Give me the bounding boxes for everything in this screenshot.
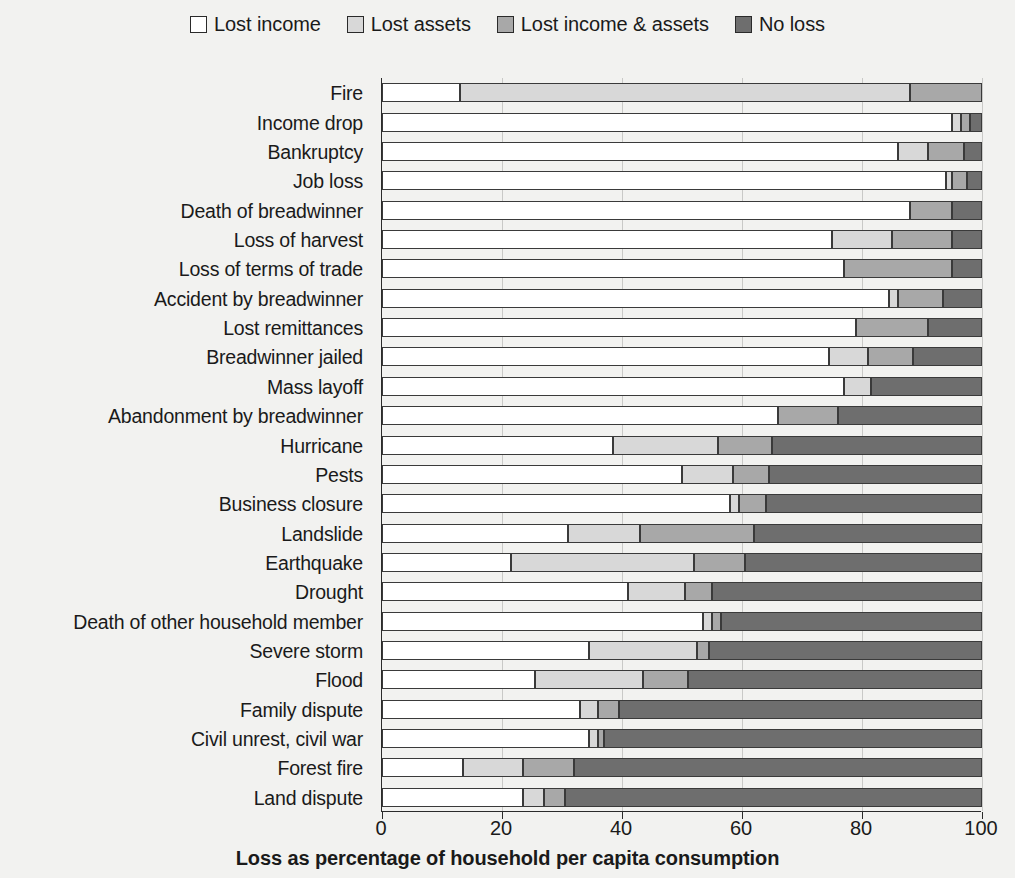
category-label: Mass layoff [267,378,363,398]
bar-segment [685,582,712,601]
legend-swatch-icon [347,16,364,33]
bar-row [382,700,982,719]
bar-segment [739,494,766,513]
bar-segment [928,142,964,161]
category-label: Flood [315,671,363,691]
bar-segment [844,377,871,396]
bar-segment [382,289,889,308]
bar-segment [829,347,868,366]
category-label: Job loss [293,172,363,192]
legend-label: Lost assets [371,14,471,34]
bar-segment [868,347,913,366]
bar-segment [943,289,982,308]
bar-segment [967,171,982,190]
bar-segment [382,318,856,337]
bar-segment [619,700,982,719]
bar-row [382,465,982,484]
bar-segment [382,612,703,631]
plot-area [381,78,981,812]
bar-segment [721,612,982,631]
bar-segment [574,758,982,777]
category-label: Accident by breadwinner [154,290,363,310]
x-tick-label: 0 [375,818,386,838]
bar-segment [565,788,982,807]
bar-segment [952,171,967,190]
x-tick-label: 40 [610,818,632,838]
category-axis-labels: FireIncome dropBankruptcyJob lossDeath o… [0,78,372,812]
category-label: Pests [315,466,363,486]
bar-segment [910,201,952,220]
bar-segment [382,259,844,278]
category-label: Death of other household member [73,613,363,633]
bar-row [382,142,982,161]
bar-row [382,259,982,278]
bar-row [382,436,982,455]
bar-segment [871,377,982,396]
legend-entry: Lost assets [347,14,471,34]
bar-segment [382,113,952,132]
x-axis-title: Loss as percentage of household per capi… [0,847,1015,870]
category-label: Earthquake [265,554,363,574]
legend-label: No loss [759,14,825,34]
bar-segment [589,641,697,660]
category-label: Severe storm [249,642,363,662]
bar-segment [523,758,574,777]
bar-segment [589,729,598,748]
bar-segment [523,788,544,807]
bar-segment [535,670,643,689]
legend-label: Lost income [214,14,321,34]
bar-segment [382,758,463,777]
bar-row [382,641,982,660]
bar-segment [382,553,511,572]
bar-segment [643,670,688,689]
value-axis-tick-labels: 020406080100 [381,818,981,842]
x-tick-label: 100 [964,818,997,838]
bar-segment [745,553,982,572]
bar-row [382,201,982,220]
bar-row [382,729,982,748]
bar-segment [463,758,523,777]
bar-segment [832,230,892,249]
bar-segment [382,641,589,660]
bar-segment [889,289,898,308]
bar-segment [703,612,712,631]
bar-segment [688,670,982,689]
bar-segment [952,230,982,249]
bar-segment [898,142,928,161]
bar-segment [580,700,598,719]
bar-segment [838,406,982,425]
bar-segment [910,83,982,102]
bar-segment [382,670,535,689]
bar-segment [766,494,982,513]
bar-segment [382,494,730,513]
bar-segment [511,553,694,572]
bar-segment [961,113,970,132]
bar-segment [709,641,982,660]
bar-segment [952,259,982,278]
stacked-bar-chart: Lost incomeLost assetsLost income & asse… [0,0,1015,878]
category-label: Loss of harvest [234,231,363,251]
gridline [982,78,983,811]
bar-segment [382,788,523,807]
bar-segment [694,553,745,572]
bar-row [382,612,982,631]
category-label: Bankruptcy [267,143,363,163]
bar-row [382,171,982,190]
legend-entry: Lost income & assets [497,14,709,34]
bar-segment [733,465,769,484]
bar-row [382,377,982,396]
bar-segment [382,524,568,543]
bar-segment [568,524,640,543]
bar-segment [382,465,682,484]
bar-row [382,524,982,543]
category-label: Drought [295,583,363,603]
bar-segment [754,524,982,543]
bar-segment [856,318,928,337]
x-tick-label: 20 [490,818,512,838]
bar-segment [892,230,952,249]
legend-label: Lost income & assets [521,14,709,34]
bar-row [382,788,982,807]
bar-segment [952,201,982,220]
bar-segment [913,347,982,366]
bar-segment [718,436,772,455]
